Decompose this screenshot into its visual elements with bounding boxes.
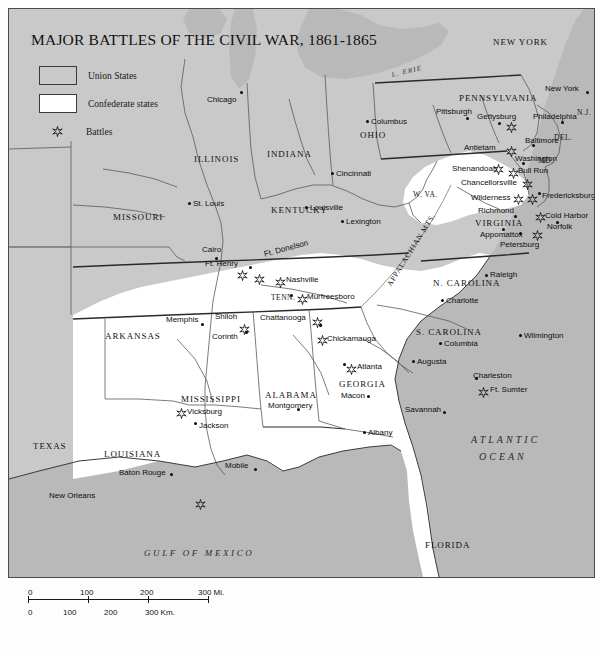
label-battle-cold-harbor: Cold Harbor [545, 211, 588, 220]
battle-star-ft-donelson [254, 271, 265, 282]
city-dot-chicago [240, 91, 243, 94]
label-state-alabama: ALABAMA [265, 390, 317, 400]
city-dot-augusta [412, 360, 415, 363]
label-city-chattanooga: Chattanooga [260, 313, 306, 322]
label-city-baltimore: Baltimore [525, 136, 559, 145]
battle-star-atlanta [346, 361, 357, 372]
battle-star-petersburg [532, 227, 543, 238]
legend-label-union: Union States [88, 71, 137, 81]
city-dot-savannah [443, 411, 446, 414]
battle-star-nashville [275, 274, 286, 285]
city-dot-mobile [254, 468, 257, 471]
label-battle-shiloh: Shiloh [215, 312, 237, 321]
city-dot-gettysburg [498, 122, 501, 125]
legend-item-battles: Battles [39, 121, 158, 142]
scale-bar: 0 100 200 300 Mi. 0 100 200 300 Km. [28, 588, 258, 620]
scale-km-numbers: 0 100 200 300 Km. [28, 608, 258, 620]
confederate-swatch [39, 94, 77, 113]
label-city-chicago: Chicago [207, 95, 236, 104]
city-dot-columbus [366, 120, 369, 123]
label-city-macon: Macon [341, 391, 365, 400]
city-dot-memphis [201, 323, 204, 326]
label-state-w-va: W. VA. [413, 190, 438, 199]
legend-label-battles: Battles [86, 127, 112, 137]
label-atlantic-ocean-line1: ATLANTIC [471, 434, 540, 445]
scale-line [28, 599, 258, 608]
label-state-new-york: NEW YORK [493, 37, 548, 47]
city-dot-st-louis [188, 202, 191, 205]
label-city-philadelphia: Philadelphia [533, 112, 577, 121]
label-city-cairo: Cairo [202, 245, 221, 254]
city-dot-ft-henry [249, 266, 252, 269]
battle-star-ft-henry [237, 267, 248, 278]
label-state-missouri: MISSOURI [113, 212, 163, 222]
city-dot-atlanta [343, 363, 346, 366]
battle-star-chattanooga [312, 314, 323, 325]
label-city-jackson: Jackson [199, 421, 228, 430]
scale-km-0: 0 [28, 608, 32, 617]
label-city-norfolk: Norfolk [547, 222, 572, 231]
label-city-columbia: Columbia [444, 339, 478, 348]
label-city-new-york: New York [545, 84, 579, 93]
scale-km-200: 200 [104, 608, 117, 617]
label-city-wilmington: Wilmington [524, 331, 564, 340]
city-dot-jackson [194, 422, 197, 425]
scale-tick-1 [88, 596, 89, 603]
label-city-montgomery: Montgomery [268, 401, 312, 410]
legend: Union States Confederate states Battles [39, 65, 158, 149]
battle-star-wilderness [513, 191, 524, 202]
label-state-nj: N.J. [577, 108, 591, 117]
scale-tick-0 [28, 596, 29, 603]
label-state-georgia: GEORGIA [339, 379, 386, 389]
legend-item-union: Union States [39, 65, 158, 86]
label-battle-gettysburg: Gettysburg [477, 112, 516, 121]
label-city-new-orleans: New Orleans [49, 491, 95, 500]
label-state-s-carolina: S. CAROLINA [416, 327, 482, 337]
label-city-savannah: Savannah [405, 405, 441, 414]
label-state-ohio: OHIO [360, 130, 386, 140]
scale-rule [28, 599, 208, 600]
city-dot-fredericksburg [538, 192, 541, 195]
city-dot-murfreesboro [290, 294, 293, 297]
label-battle-murfreesboro: Murfreesboro [307, 292, 355, 301]
label-city-baton-rouge: Baton Rouge [119, 468, 166, 477]
city-dot-cincinnati [331, 172, 334, 175]
label-state-arkansas: ARKANSAS [105, 331, 161, 341]
label-city-raleigh: Raleigh [490, 270, 517, 279]
label-city-washington: Washington [515, 154, 557, 163]
union-swatch [39, 66, 77, 85]
city-dot-wilmington [519, 334, 522, 337]
label-city-pittsburgh: Pittsburgh [436, 107, 472, 116]
scale-km-300: 300 Km. [145, 608, 175, 617]
label-battle-vicksburg: Vicksburg [187, 407, 222, 416]
label-city-augusta: Augusta [417, 357, 446, 366]
label-state-louisiana: LOUISIANA [104, 449, 161, 459]
battle-star-icon [39, 126, 75, 137]
city-dot-richmond [514, 215, 517, 218]
label-battle-chancellorsville: Chancellorsville [461, 178, 517, 187]
label-state-texas: TEXAS [33, 441, 67, 451]
scale-mi-200: 200 [140, 588, 153, 597]
label-state-virginia: VIRGINIA [475, 218, 523, 228]
battle-star-fredericksburg [527, 191, 538, 202]
label-city-st-louis: St. Louis [193, 199, 224, 208]
label-city-corinth: Corinth [212, 332, 238, 341]
city-dot-albany [363, 431, 366, 434]
city-dot-baton-rouge [170, 473, 173, 476]
label-city-charleston: Charleston [473, 371, 512, 380]
label-city-louisville: Louisville [310, 203, 343, 212]
label-battle-atlanta: Atlanta [357, 362, 382, 371]
city-dot-lexington [341, 220, 344, 223]
battle-star-shenandoah [493, 161, 504, 172]
label-state-pennsylvania: PENNSYLVANIA [459, 93, 537, 103]
scale-miles-numbers: 0 100 200 300 Mi. [28, 588, 258, 599]
label-state-n-carolina: N. CAROLINA [433, 278, 500, 288]
scale-tick-3 [208, 596, 209, 603]
label-battle-bull-run: Bull Run [518, 166, 548, 175]
label-city-shenandoah: Shenandoah [452, 164, 497, 173]
battle-star-antietam [506, 143, 517, 154]
label-gulf-of-mexico: GULF OF MEXICO [144, 548, 254, 558]
scale-tick-2 [148, 596, 149, 603]
battle-star-chancellorsville [522, 176, 533, 187]
label-city-appomattox: Appomattox [480, 230, 523, 239]
